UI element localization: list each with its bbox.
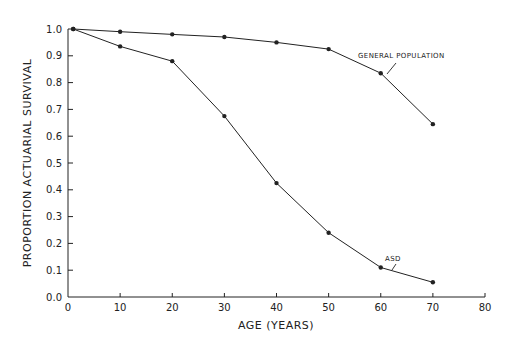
general-population-line <box>73 29 433 124</box>
x-tick-label: 50 <box>322 302 335 313</box>
general-population-data-point <box>326 47 330 51</box>
x-tick-label: 20 <box>166 302 179 313</box>
y-tick-label: 0.9 <box>46 50 62 61</box>
general-population-data-point <box>379 71 383 75</box>
y-tick-label: 0.7 <box>46 104 62 115</box>
x-tick-label: 0 <box>65 302 71 313</box>
x-tick-label: 10 <box>114 302 127 313</box>
annotation-general-population-leader <box>387 63 396 74</box>
asd-data-point <box>379 265 383 269</box>
series-layer <box>71 27 435 285</box>
general-population-data-point <box>118 29 122 33</box>
asd-data-point <box>274 181 278 185</box>
y-axis-title: PROPORTION ACTUARIAL SURVIVAL <box>21 58 34 267</box>
x-tick-label: 80 <box>479 302 492 313</box>
annotations: GENERAL POPULATION ASD <box>358 52 445 270</box>
annotation-asd: ASD <box>385 255 401 263</box>
y-tick-label: 0.6 <box>46 131 62 142</box>
y-tick-label: 0.8 <box>46 77 62 88</box>
y-tick-label: 0.1 <box>46 265 62 276</box>
asd-data-point <box>431 280 435 284</box>
x-axis-title: AGE (YEARS) <box>238 319 314 332</box>
asd-data-point <box>170 59 174 63</box>
asd-data-point <box>222 114 226 118</box>
asd-line <box>73 29 433 282</box>
asd-data-point <box>71 27 75 31</box>
axes: 010203040506070800.00.10.20.30.40.50.60.… <box>46 24 491 314</box>
y-tick-label: 0.0 <box>46 292 62 303</box>
y-tick-label: 0.2 <box>46 238 62 249</box>
y-tick-label: 1.0 <box>46 24 62 35</box>
x-tick-label: 30 <box>218 302 231 313</box>
y-tick-label: 0.5 <box>46 158 62 169</box>
annotation-general-population: GENERAL POPULATION <box>358 52 445 60</box>
x-tick-label: 40 <box>270 302 283 313</box>
y-tick-label: 0.4 <box>46 184 62 195</box>
x-tick-label: 70 <box>427 302 440 313</box>
annotation-asd-leader <box>392 264 396 270</box>
survival-chart: 010203040506070800.00.10.20.30.40.50.60.… <box>0 0 510 342</box>
general-population-data-point <box>170 32 174 36</box>
y-tick-label: 0.3 <box>46 211 62 222</box>
general-population-data-point <box>431 122 435 126</box>
general-population-data-point <box>274 40 278 44</box>
general-population-data-point <box>222 35 226 39</box>
asd-data-point <box>118 44 122 48</box>
asd-data-point <box>326 230 330 234</box>
series-general-population <box>71 27 435 127</box>
x-tick-label: 60 <box>374 302 387 313</box>
series-asd <box>71 27 435 285</box>
